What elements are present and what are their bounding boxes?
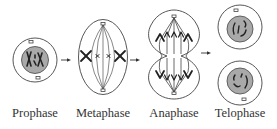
label-anaphase: Anaphase xyxy=(149,106,198,121)
label-prophase: Prophase xyxy=(12,106,58,121)
telophase-bottom-nucleus xyxy=(227,68,253,94)
arrow-anaphase-to-telophase xyxy=(201,51,211,55)
telophase-top-nucleus xyxy=(227,16,253,42)
anaphase-cell xyxy=(149,10,200,99)
arrow-metaphase-to-anaphase xyxy=(130,58,140,62)
prophase-nucleus xyxy=(22,47,49,74)
telophase-daughter-cell-top xyxy=(218,5,262,49)
prophase-cell xyxy=(13,38,57,82)
label-telophase: Telophase xyxy=(215,106,266,121)
arrow-prophase-to-metaphase xyxy=(61,58,71,62)
metaphase-cell xyxy=(79,20,128,95)
telophase-daughter-cell-bottom xyxy=(218,61,262,105)
label-metaphase: Metaphase xyxy=(76,106,130,121)
